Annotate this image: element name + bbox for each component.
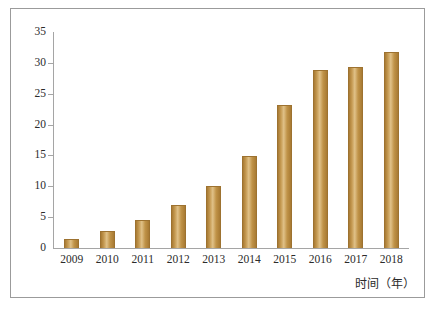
bar (348, 67, 363, 248)
y-axis-tick-label: 0 (2, 242, 46, 254)
x-axis-tick-label: 2009 (60, 254, 83, 266)
bar-series (54, 32, 409, 248)
bar (171, 205, 186, 248)
bar (384, 52, 399, 248)
x-axis-tick-label: 2012 (167, 254, 190, 266)
bar (313, 70, 328, 248)
y-axis-tick-mark (48, 125, 53, 126)
y-axis-tick-label: 20 (2, 119, 46, 131)
y-axis-tick-labels: 05101520253035 (0, 0, 46, 313)
x-axis-tick-label: 2014 (238, 254, 261, 266)
y-axis-tick-label: 15 (2, 150, 46, 162)
bar (277, 105, 292, 248)
x-axis-line (53, 248, 409, 249)
y-axis-tick-mark (48, 155, 53, 156)
y-axis-tick-label: 35 (2, 26, 46, 38)
y-axis-tick-label: 25 (2, 88, 46, 100)
y-axis-tick-mark (48, 186, 53, 187)
chart-figure: 05101520253035 2009201020112012201320142… (0, 0, 437, 313)
y-axis-tick-label: 10 (2, 181, 46, 193)
x-axis-tick-label: 2016 (309, 254, 332, 266)
x-axis-tick-label: 2017 (344, 254, 367, 266)
x-axis-title: 时间（年） (355, 274, 415, 291)
y-axis-tick-mark (48, 94, 53, 95)
x-axis-tick-label: 2015 (273, 254, 296, 266)
x-axis-tick-label: 2011 (131, 254, 154, 266)
bar (242, 156, 257, 248)
y-axis-tick-label: 5 (2, 211, 46, 223)
x-axis-tick-label: 2010 (96, 254, 119, 266)
bar (64, 239, 79, 248)
bar (100, 231, 115, 248)
bar (135, 220, 150, 248)
x-axis-tick-label: 2018 (380, 254, 403, 266)
bar (206, 186, 221, 248)
y-axis-tick-mark (48, 217, 53, 218)
x-axis-tick-label: 2013 (202, 254, 225, 266)
y-axis-tick-label: 30 (2, 57, 46, 69)
y-axis-tick-mark (48, 63, 53, 64)
